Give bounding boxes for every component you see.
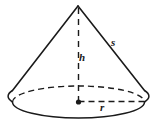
radius-label: r bbox=[100, 102, 104, 113]
cone-figure-svg bbox=[0, 0, 153, 126]
height-label: h bbox=[79, 52, 85, 63]
right-slant-edge bbox=[78, 6, 145, 91]
left-slant-edge bbox=[13, 6, 79, 91]
slant-height-label: s bbox=[111, 37, 115, 48]
right-edge-connector bbox=[145, 91, 149, 103]
left-edge-connector bbox=[8, 91, 12, 103]
cone-diagram: h s r bbox=[0, 0, 153, 126]
base-center-dot bbox=[76, 99, 81, 104]
